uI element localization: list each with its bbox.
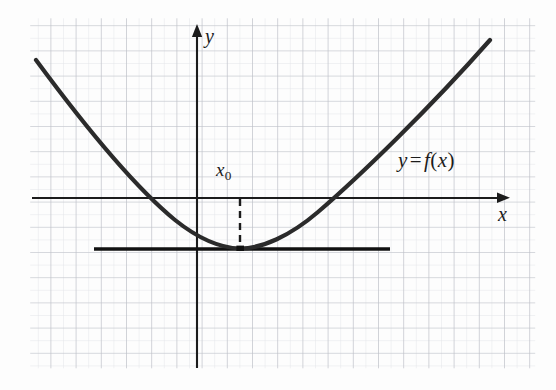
function-graph-figure: y x x0 y=f(x) — [0, 0, 556, 390]
equation-open-paren: ( — [430, 148, 437, 172]
y-axis-label: y — [205, 26, 214, 46]
equation-close-paren: ) — [447, 148, 454, 172]
x0-label-base: x — [216, 159, 224, 180]
minimum-point-marker — [236, 246, 244, 251]
x0-label: x0 — [216, 160, 231, 182]
graph-canvas — [0, 0, 556, 390]
x-axis-label: x — [498, 204, 507, 224]
x0-label-subscript: 0 — [225, 168, 232, 183]
equation-argument: x — [438, 148, 448, 172]
equation-equals-sign: = — [410, 148, 422, 172]
function-equation-label: y=f(x) — [398, 150, 455, 171]
equation-lhs: y — [398, 148, 408, 172]
